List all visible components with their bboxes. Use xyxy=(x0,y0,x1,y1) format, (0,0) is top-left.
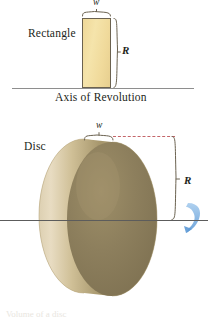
width-brace-disc xyxy=(85,133,114,140)
figure-canvas: Rectangle w R Axis of Revolution Disc w … xyxy=(0,0,208,318)
axis-of-revolution-caption: Axis of Revolution xyxy=(55,91,147,103)
width-label-disc: w xyxy=(96,120,102,130)
rotation-arrow-icon xyxy=(184,203,200,233)
radius-label-rectangle: R xyxy=(122,44,129,56)
axis-of-revolution-line xyxy=(12,88,194,89)
radius-brace-rectangle xyxy=(114,19,120,88)
radius-label-disc: R xyxy=(184,174,191,186)
disc-solid xyxy=(39,139,157,296)
rectangle-shape xyxy=(82,18,111,88)
axis-of-revolution-line-disc xyxy=(0,220,208,221)
width-label-rectangle: w xyxy=(93,0,99,7)
disc-label: Disc xyxy=(24,140,46,152)
rectangle-label: Rectangle xyxy=(28,27,76,39)
dashed-radius-guide xyxy=(113,136,175,137)
bottom-caption: Volume of a disc xyxy=(6,309,67,318)
width-brace-rectangle xyxy=(83,9,111,16)
radius-brace-disc xyxy=(172,137,180,220)
